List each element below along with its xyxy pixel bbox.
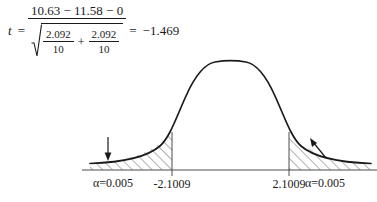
formula-result-value: −1.469 (140, 24, 183, 37)
tick-label-upper: 2.1009 (273, 177, 306, 191)
plus-operator: + (74, 36, 89, 48)
formula-numerator: 10.63 − 11.58 − 0 (28, 4, 126, 18)
tick-label-lower: -2.1009 (154, 177, 191, 191)
bell-curve (90, 61, 371, 164)
right-alpha-value: 0.005 (318, 176, 345, 190)
formula-variable: t (8, 24, 15, 37)
main-fraction: 10.63 − 11.58 − 0 2.092 10 + (28, 4, 126, 57)
radicand: 2.092 10 + 2.092 10 (41, 23, 123, 57)
variance-term-1-denominator: 10 (50, 42, 67, 55)
t-statistic-formula: t = 10.63 − 11.58 − 0 2.092 10 + (8, 4, 182, 57)
square-root-expression: 2.092 10 + 2.092 10 (31, 21, 123, 57)
figure-container: t = 10.63 − 11.58 − 0 2.092 10 + (0, 0, 377, 202)
variance-term-2: 2.092 10 (89, 29, 120, 55)
left-alpha-value: 0.005 (106, 176, 133, 190)
formula-denominator: 2.092 10 + 2.092 10 (28, 19, 126, 57)
formula-result-equals-sign: = (126, 24, 139, 37)
right-tail-shaded-region (289, 132, 371, 170)
left-tail-shaded-region (90, 132, 172, 170)
left-alpha-label: α=0.005 (93, 176, 133, 191)
formula-equals-sign: = (15, 24, 28, 37)
variance-term-1-numerator: 2.092 (43, 29, 74, 41)
variance-term-1: 2.092 10 (43, 29, 74, 55)
right-alpha-label: α=0.005 (305, 176, 345, 191)
distribution-plot: -2.1009 2.1009 α=0.005 α=0.005 (0, 58, 377, 202)
variance-term-2-numerator: 2.092 (89, 29, 120, 41)
left-tail-arrow-icon (105, 137, 112, 161)
variance-term-2-denominator: 10 (95, 42, 112, 55)
